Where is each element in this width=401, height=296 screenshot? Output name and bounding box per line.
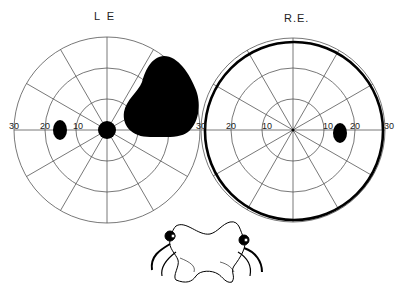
visual-field-diagram: 30 20 10 30 20 10 10 20 30: [0, 0, 401, 296]
svg-text:20: 20: [226, 121, 236, 131]
svg-text:30: 30: [9, 121, 19, 131]
central-scotoma: [98, 121, 116, 139]
left-axis-labels: 30 20 10: [9, 121, 83, 131]
right-blind-spot: [333, 123, 347, 143]
svg-text:10: 10: [262, 121, 272, 131]
paracentral-scotoma: [53, 120, 67, 140]
svg-text:30: 30: [384, 121, 394, 131]
optic-chiasm-illustration: [152, 222, 262, 283]
svg-text:20: 20: [350, 121, 360, 131]
svg-text:30: 30: [196, 121, 206, 131]
superior-nasal-scotoma: [124, 56, 199, 137]
svg-text:10: 10: [323, 121, 333, 131]
fixation-point: [292, 129, 295, 132]
svg-text:20: 20: [40, 121, 50, 131]
svg-text:10: 10: [73, 121, 83, 131]
